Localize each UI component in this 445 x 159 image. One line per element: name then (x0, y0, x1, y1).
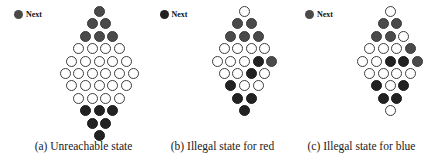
board-cell[interactable] (364, 43, 375, 54)
board-cell[interactable] (253, 31, 264, 42)
board-cell[interactable] (225, 56, 236, 67)
board-panel: Next (297, 4, 439, 130)
board-cell[interactable] (73, 68, 84, 79)
board-cell[interactable] (239, 56, 250, 67)
board-cell[interactable] (259, 68, 270, 79)
board-cell[interactable] (246, 68, 257, 79)
board-cell[interactable] (239, 80, 250, 91)
board-cell[interactable] (212, 56, 223, 67)
board-cell[interactable] (412, 56, 423, 67)
board-cell[interactable] (357, 56, 368, 67)
subfigure-caption: (a) Unreachable state (14, 139, 153, 153)
board-cell[interactable] (114, 93, 125, 104)
board-cell[interactable] (121, 80, 132, 91)
board-cell[interactable] (232, 18, 243, 29)
board-cell[interactable] (391, 68, 402, 79)
board-panel: Next (6, 4, 148, 130)
board-cell[interactable] (378, 43, 389, 54)
game-board (6, 4, 148, 130)
board-cell[interactable] (259, 43, 270, 54)
board-cell[interactable] (107, 105, 118, 116)
board-cell[interactable] (385, 105, 396, 116)
board-cell[interactable] (239, 6, 250, 17)
board-cell[interactable] (107, 80, 118, 91)
board-cell[interactable] (385, 56, 396, 67)
board-cell[interactable] (219, 68, 230, 79)
board-cell[interactable] (364, 68, 375, 79)
board-cell[interactable] (371, 56, 382, 67)
board-cell[interactable] (239, 31, 250, 42)
board-cell[interactable] (239, 105, 250, 116)
board-cell[interactable] (114, 43, 125, 54)
board-cell[interactable] (405, 68, 416, 79)
board-cell[interactable] (121, 56, 132, 67)
subfigure-caption: (b) Illegal state for red (153, 139, 292, 153)
board-cell[interactable] (94, 80, 105, 91)
board-cell[interactable] (219, 43, 230, 54)
board-cell[interactable] (246, 18, 257, 29)
board-cell[interactable] (94, 105, 105, 116)
board-cell[interactable] (87, 93, 98, 104)
panel-container: NextNextNext (0, 0, 445, 130)
board-cell[interactable] (100, 68, 111, 79)
board-cell[interactable] (398, 56, 409, 67)
board-cell[interactable] (225, 31, 236, 42)
game-board (297, 4, 439, 130)
board-cell[interactable] (107, 56, 118, 67)
board-cell[interactable] (378, 18, 389, 29)
board-cell[interactable] (87, 43, 98, 54)
board-cell[interactable] (80, 105, 91, 116)
board-cell[interactable] (80, 31, 91, 42)
caption-row: (a) Unreachable state(b) Illegal state f… (0, 139, 445, 153)
board-cell[interactable] (66, 80, 77, 91)
board-cell[interactable] (253, 80, 264, 91)
board-cell[interactable] (246, 43, 257, 54)
board-cell[interactable] (246, 93, 257, 104)
board-cell[interactable] (94, 6, 105, 17)
board-cell[interactable] (266, 56, 277, 67)
board-cell[interactable] (391, 43, 402, 54)
board-cell[interactable] (371, 31, 382, 42)
board-cell[interactable] (378, 68, 389, 79)
board-cell[interactable] (114, 68, 125, 79)
board-cell[interactable] (398, 31, 409, 42)
subfigure-caption: (c) Illegal state for blue (292, 139, 431, 153)
board-cell[interactable] (232, 93, 243, 104)
board-cell[interactable] (385, 80, 396, 91)
board-cell[interactable] (371, 80, 382, 91)
board-cell[interactable] (225, 80, 236, 91)
board-cell[interactable] (391, 18, 402, 29)
board-cell[interactable] (385, 6, 396, 17)
board-cell[interactable] (100, 43, 111, 54)
board-cell[interactable] (253, 56, 264, 67)
board-cell[interactable] (232, 68, 243, 79)
board-cell[interactable] (128, 68, 139, 79)
board-cell[interactable] (100, 18, 111, 29)
board-cell[interactable] (80, 56, 91, 67)
board-cell[interactable] (232, 43, 243, 54)
board-cell[interactable] (100, 93, 111, 104)
board-cell[interactable] (80, 80, 91, 91)
board-cell[interactable] (87, 118, 98, 129)
board-panel: Next (152, 4, 294, 130)
board-cell[interactable] (385, 31, 396, 42)
board-cell[interactable] (87, 68, 98, 79)
board-cell[interactable] (73, 43, 84, 54)
game-board (152, 4, 294, 130)
board-cell[interactable] (391, 93, 402, 104)
board-cell[interactable] (107, 31, 118, 42)
board-cell[interactable] (94, 31, 105, 42)
board-cell[interactable] (100, 118, 111, 129)
board-cell[interactable] (66, 56, 77, 67)
board-cell[interactable] (87, 18, 98, 29)
board-cell[interactable] (94, 56, 105, 67)
figure-subfigure-row: NextNextNext (a) Unreachable state(b) Il… (0, 0, 445, 159)
board-cell[interactable] (405, 43, 416, 54)
board-cell[interactable] (378, 93, 389, 104)
board-cell[interactable] (398, 80, 409, 91)
board-cell[interactable] (60, 68, 71, 79)
board-cell[interactable] (73, 93, 84, 104)
